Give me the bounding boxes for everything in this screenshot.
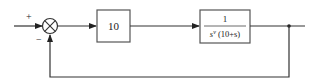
gain-block-label: 10 — [108, 20, 120, 32]
minus-sign: − — [36, 34, 42, 45]
feedback-path — [50, 26, 289, 77]
plant-numerator: 1 — [223, 14, 228, 24]
plus-sign: + — [26, 11, 32, 22]
block-diagram: + − 10 1 sν (10+s) — [0, 0, 310, 82]
summing-junction — [43, 19, 58, 34]
